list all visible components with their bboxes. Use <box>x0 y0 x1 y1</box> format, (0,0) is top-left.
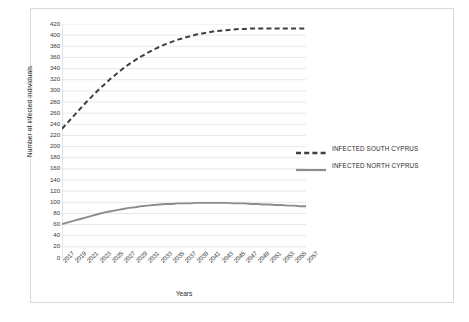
y-tick-label: 40 <box>53 232 60 238</box>
y-tick-label: 20 <box>53 243 60 249</box>
y-tick-label: 300 <box>50 87 60 93</box>
y-tick-label: 260 <box>50 110 60 116</box>
y-tick-label: 200 <box>50 143 60 149</box>
y-tick-label: 180 <box>50 154 60 160</box>
y-tick-label: 80 <box>53 210 60 216</box>
legend-item[interactable]: INFECTED NORTH CYPRUS <box>296 157 446 174</box>
y-tick-label: 60 <box>53 221 60 227</box>
y-tick-label: 360 <box>50 54 60 60</box>
y-tick-label: 280 <box>50 99 60 105</box>
solid-line-icon <box>296 161 326 171</box>
series-line <box>62 28 306 128</box>
dashed-line-icon <box>296 144 326 154</box>
x-axis-ticks: 2017201920212023202520272029203120332035… <box>62 259 312 291</box>
y-tick-label: 140 <box>50 177 60 183</box>
legend-label: INFECTED SOUTH CYPRUS <box>332 145 418 152</box>
plot-svg <box>62 24 306 258</box>
y-tick-label: 400 <box>50 32 60 38</box>
y-tick-label: 0 <box>57 255 60 261</box>
y-tick-label: 100 <box>50 199 60 205</box>
y-tick-label: 380 <box>50 43 60 49</box>
y-tick-label: 220 <box>50 132 60 138</box>
y-axis-ticks: 4204003803603403203002802602402202001801… <box>36 24 60 258</box>
y-tick-label: 120 <box>50 188 60 194</box>
x-axis-title: Years <box>62 290 306 297</box>
y-tick-label: 340 <box>50 65 60 71</box>
y-tick-label: 420 <box>50 21 60 27</box>
plot-area <box>62 24 306 258</box>
y-tick-label: 320 <box>50 76 60 82</box>
legend-label: INFECTED NORTH CYPRUS <box>332 162 419 169</box>
y-tick-label: 160 <box>50 165 60 171</box>
y-axis-title: Number of infected individuals <box>26 37 33 187</box>
chart-figure: Number of infected individuals 420400380… <box>0 0 469 322</box>
legend-item[interactable]: INFECTED SOUTH CYPRUS <box>296 140 446 157</box>
chart-legend: INFECTED SOUTH CYPRUSINFECTED NORTH CYPR… <box>296 140 446 174</box>
y-tick-label: 240 <box>50 121 60 127</box>
